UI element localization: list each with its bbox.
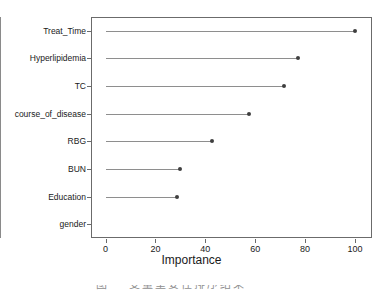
y-axis-label-gender: gender bbox=[60, 220, 86, 229]
y-axis-label-treat-time: Treat_Time bbox=[43, 26, 86, 35]
y-tick bbox=[87, 169, 91, 170]
data-point-bun bbox=[178, 167, 182, 171]
x-tick bbox=[106, 239, 107, 243]
y-tick bbox=[87, 86, 91, 87]
data-point-course-of-disease bbox=[247, 112, 251, 116]
y-axis-label-bun: BUN bbox=[68, 164, 86, 173]
figure-container: Treat_TimeHyperlipidemiaTCcourse_of_dise… bbox=[0, 0, 383, 291]
stem-line bbox=[106, 197, 177, 198]
y-axis-label-rbg: RBG bbox=[68, 137, 86, 146]
stem-line bbox=[106, 114, 249, 115]
stem-line bbox=[106, 31, 356, 32]
data-point-rbg bbox=[210, 139, 214, 143]
y-tick bbox=[87, 58, 91, 59]
data-point-tc bbox=[282, 84, 286, 88]
y-axis-label-hyperlipidemia: Hyperlipidemia bbox=[30, 54, 86, 63]
zero-reference-line bbox=[0, 17, 1, 238]
stem-line bbox=[106, 86, 284, 87]
y-tick bbox=[87, 224, 91, 225]
data-point-hyperlipidemia bbox=[296, 56, 300, 60]
x-tick bbox=[305, 239, 306, 243]
figure-caption-clipped: 图 变量重要性排序结果 bbox=[0, 285, 383, 291]
data-point-treat-time bbox=[353, 29, 357, 33]
stem-line bbox=[106, 141, 212, 142]
y-tick bbox=[87, 197, 91, 198]
x-tick bbox=[355, 239, 356, 243]
y-tick bbox=[87, 31, 91, 32]
y-axis-label-tc: TC bbox=[75, 82, 86, 91]
y-tick bbox=[87, 114, 91, 115]
figure-caption-text: 图 变量重要性排序结果 bbox=[96, 285, 246, 291]
x-tick bbox=[255, 239, 256, 243]
stem-line bbox=[106, 58, 298, 59]
data-point-education bbox=[175, 195, 179, 199]
stem-line bbox=[106, 169, 181, 170]
y-axis-label-course-of-disease: course_of_disease bbox=[15, 109, 86, 118]
plot-frame bbox=[91, 17, 372, 238]
x-tick bbox=[155, 239, 156, 243]
x-axis-title: Importance bbox=[0, 253, 383, 267]
x-tick bbox=[205, 239, 206, 243]
y-axis-label-education: Education bbox=[48, 192, 86, 201]
y-tick bbox=[87, 141, 91, 142]
